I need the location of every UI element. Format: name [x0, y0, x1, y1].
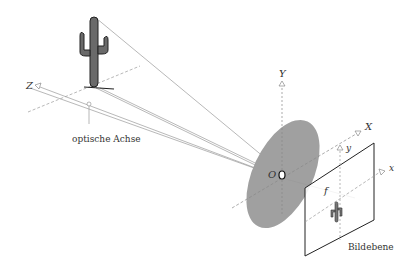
z-axis-line	[40, 87, 282, 178]
optical-axis-marker	[87, 102, 91, 106]
x-axis-label: X	[364, 121, 373, 132]
y-arrow-icon	[279, 81, 285, 86]
projection-rays	[30, 18, 282, 178]
origin-pinhole	[279, 171, 285, 179]
z-arrow-icon	[35, 83, 41, 89]
image-x-arrow-icon	[379, 169, 385, 175]
image-plane-label: Bildebene	[348, 242, 394, 252]
optical-axis-label: optische Achse	[72, 134, 141, 144]
origin-label: O	[268, 169, 276, 180]
image-y-arrow-icon	[337, 145, 343, 150]
image-x-label: x	[389, 163, 394, 173]
pinhole-camera-diagram: Z optische Achse Y X O y x f Bildebene	[0, 0, 415, 268]
cactus-object	[80, 17, 114, 89]
image-y-label: y	[345, 143, 352, 153]
y-axis-label: Y	[279, 68, 287, 79]
z-axis-label: Z	[25, 80, 34, 91]
x-arrow-icon	[355, 131, 361, 136]
